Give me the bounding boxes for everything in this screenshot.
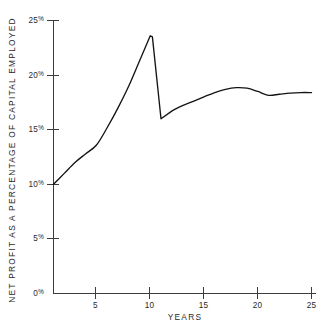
chart-figure: 25% 20% 15% 10% 5% 0% 5 10 15 20 25 YEAR…	[0, 0, 327, 323]
x-tick-label-20: 20	[253, 301, 263, 310]
x-tick-label-10: 10	[145, 301, 155, 310]
chart-background	[0, 0, 327, 323]
y-axis-title: NET PROFIT AS A PERCENTAGE OF CAPITAL EM…	[7, 17, 17, 303]
x-tick-label-15: 15	[199, 301, 209, 310]
x-tick-label-5: 5	[93, 301, 98, 310]
line-chart-canvas: 25% 20% 15% 10% 5% 0% 5 10 15 20 25 YEAR…	[0, 0, 327, 323]
x-tick-label-25: 25	[307, 301, 317, 310]
x-axis-title: YEARS	[168, 312, 203, 322]
